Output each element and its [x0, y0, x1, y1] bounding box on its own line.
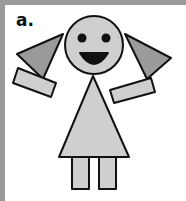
right-eye-icon [102, 34, 111, 43]
left-eye-icon [78, 34, 87, 43]
right-arm-icon [110, 78, 155, 103]
left-arm-icon [13, 68, 56, 97]
head-icon [65, 16, 123, 74]
girl-figure-illustration [0, 0, 186, 201]
figure-panel: a. [0, 0, 186, 201]
left-leg-icon [72, 156, 89, 189]
right-leg-icon [99, 156, 116, 189]
right-pigtail-icon [125, 34, 171, 79]
